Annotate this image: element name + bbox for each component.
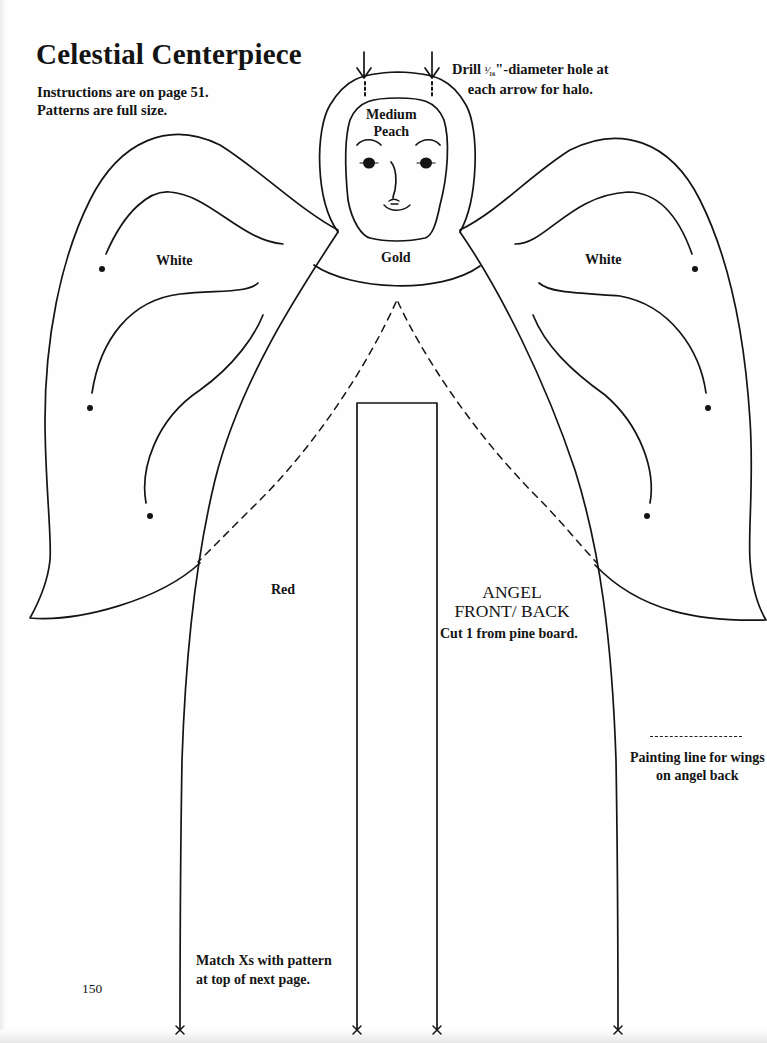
halo-drill-arrows xyxy=(357,52,439,96)
left-feather-1 xyxy=(106,192,283,254)
back-wing-painting-line-right xyxy=(398,302,597,563)
right-feather-1 xyxy=(515,192,692,254)
mouth xyxy=(384,200,410,211)
left-wing-outer xyxy=(30,134,338,618)
legend-painting-line: Painting line for wings on angel back xyxy=(630,749,765,785)
left-feather-3 xyxy=(145,315,263,503)
page-number: 150 xyxy=(82,981,102,997)
left-wing-dot-2 xyxy=(87,405,93,411)
right-wing-dot-3 xyxy=(644,513,650,519)
nose xyxy=(391,162,396,198)
left-wing-color-label: White xyxy=(156,253,193,269)
match-x-marks xyxy=(176,1026,622,1034)
collar-color-label: Gold xyxy=(381,250,411,266)
instructions-reference: Instructions are on page 51. xyxy=(37,83,209,101)
right-wing-outer xyxy=(460,138,766,620)
pattern-size-note: Patterns are full size. xyxy=(37,101,209,119)
right-wing-dot-1 xyxy=(692,266,698,272)
right-feather-3 xyxy=(533,315,651,503)
left-eye xyxy=(363,158,375,169)
inner-panel-outline xyxy=(357,403,437,1030)
left-wing-dot-1 xyxy=(99,266,105,272)
right-eye xyxy=(420,158,432,169)
drill-note: Drill ¹⁄₁₆"-diameter hole at each arrow … xyxy=(452,60,609,98)
robe-left-edge xyxy=(180,232,338,1030)
left-wing-dot-3 xyxy=(147,513,153,519)
left-feather-2 xyxy=(92,283,258,393)
robe-color-label: Red xyxy=(271,582,295,598)
intro-notes: Instructions are on page 51. Patterns ar… xyxy=(37,83,209,119)
right-wing-dot-2 xyxy=(705,405,711,411)
right-wing-color-label: White xyxy=(585,252,622,268)
angel-pattern-drawing xyxy=(0,0,767,1043)
page-title: Celestial Centerpiece xyxy=(36,38,302,71)
match-xs-note: Match Xs with pattern at top of next pag… xyxy=(196,951,332,989)
piece-name: ANGEL FRONT/ BACK xyxy=(442,583,582,621)
left-eyebrow xyxy=(357,140,381,145)
drill-note-line2: each arrow for halo. xyxy=(452,80,609,98)
back-wing-painting-line-left xyxy=(198,302,396,562)
legend-dashed-line-sample xyxy=(650,736,742,737)
face-color-label: Medium Peach xyxy=(366,106,417,140)
drill-note-line1: Drill ¹⁄₁₆"-diameter hole at xyxy=(452,60,609,80)
collar-bottom xyxy=(314,265,480,286)
pattern-page: Celestial Centerpiece Instructions are o… xyxy=(0,0,767,1043)
cut-instruction: Cut 1 from pine board. xyxy=(440,626,578,642)
right-eyebrow xyxy=(416,140,440,145)
right-feather-2 xyxy=(539,283,706,393)
